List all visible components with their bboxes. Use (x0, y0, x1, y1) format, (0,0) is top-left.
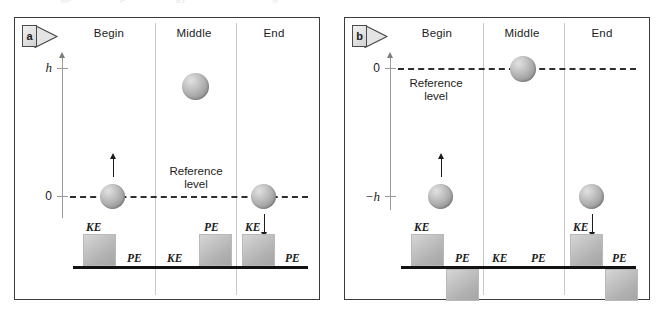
reference-level-line1: Reference (155, 165, 237, 178)
arrow-shaft (592, 214, 594, 233)
panel-a: a Begin Middle End h 0 Reference level (14, 17, 320, 300)
ball-begin (100, 184, 125, 209)
vertical-axis (390, 58, 391, 210)
panel-b-letter: b (352, 25, 367, 47)
arrow-shaft (441, 158, 443, 177)
bar-label-end-ke: KE (573, 221, 588, 233)
reference-level-label: Reference level (395, 77, 477, 103)
axis-arrowhead-icon (59, 52, 65, 58)
column-header-end: End (239, 27, 309, 39)
ball-end (251, 184, 276, 209)
column-header-middle: Middle (484, 27, 560, 39)
energy-baseline (401, 266, 636, 269)
panel-b-marker: b (352, 24, 388, 49)
cut-off-text-fragment: gp (60, 0, 72, 3)
bar-begin-pe (446, 269, 479, 301)
bar-label-begin-ke: KE (414, 221, 429, 233)
column-header-end: End (567, 27, 637, 39)
cut-off-text-fragment: gy (175, 0, 187, 3)
axis-tick-h (57, 68, 68, 69)
panel-b: b Begin Middle End 0 −h Reference level (344, 17, 650, 300)
bar-begin-ke (83, 234, 116, 266)
panel-a-marker: a (22, 24, 58, 49)
panel-a-letter: a (22, 25, 37, 47)
ball-end (579, 184, 604, 209)
bar-label-end-pe: PE (612, 252, 627, 264)
reference-level-line2: level (155, 178, 237, 191)
bar-label-begin-pe: PE (127, 252, 142, 264)
bar-label-end-ke: KE (245, 221, 260, 233)
cut-off-text-fragment: g (272, 0, 278, 3)
bar-label-begin-pe: PE (455, 252, 470, 264)
energy-conservation-figure: a Begin Middle End h 0 Reference level (0, 9, 667, 309)
bar-label-middle-ke: KE (492, 252, 507, 264)
column-divider-1 (155, 23, 156, 295)
axis-tick-zero (57, 196, 68, 197)
column-divider-2 (564, 23, 565, 295)
column-header-begin: Begin (67, 27, 151, 39)
bar-end-ke (570, 234, 603, 266)
bar-begin-ke (411, 234, 444, 266)
bar-label-begin-ke: KE (86, 221, 101, 233)
reference-level-label: Reference level (155, 165, 237, 191)
axis-label-minus-h: −h (349, 189, 380, 205)
cut-off-text-fragment: p (120, 0, 126, 3)
ball-middle (510, 56, 536, 82)
cut-off-caption-strip: gp p gy g (0, 0, 667, 9)
reference-level-line1: Reference (395, 77, 477, 90)
arrow-shaft (264, 214, 266, 233)
column-divider-1 (483, 23, 484, 295)
triangle-marker-icon (364, 24, 396, 49)
axis-tick-minus-h (385, 196, 396, 197)
bar-end-pe (605, 269, 638, 301)
bar-label-middle-pe: PE (204, 221, 219, 233)
axis-label-zero: 0 (27, 189, 52, 203)
axis-arrowhead-icon (387, 52, 393, 58)
bar-middle-pe (199, 234, 232, 266)
bar-label-end-pe: PE (285, 252, 300, 264)
ball-middle (182, 73, 209, 100)
reference-level-line2: level (395, 90, 477, 103)
column-divider-2 (236, 23, 237, 295)
axis-tick-zero (385, 68, 396, 69)
bar-end-ke (242, 234, 275, 266)
column-header-middle: Middle (156, 27, 232, 39)
axis-label-zero: 0 (355, 61, 380, 75)
axis-label-h: h (27, 60, 52, 76)
arrow-shaft (113, 158, 115, 177)
vertical-axis (62, 58, 63, 218)
energy-baseline (73, 266, 308, 269)
column-header-begin: Begin (395, 27, 479, 39)
bar-label-middle-pe: PE (531, 252, 546, 264)
triangle-marker-icon (34, 24, 66, 49)
ball-begin (428, 184, 453, 209)
bar-label-middle-ke: KE (167, 252, 182, 264)
